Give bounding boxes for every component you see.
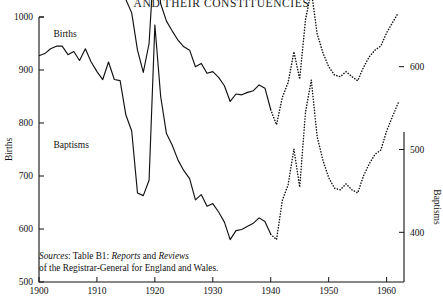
tick-label-right-400: 400 [410, 228, 425, 238]
series-label-births: Births [53, 29, 77, 39]
chart-page: AND THEIR CONSTITUENCIES 100090080070060… [0, 0, 443, 306]
source-note-text-a: : Table B1: [68, 251, 111, 261]
series-line-solid-births [39, 25, 271, 240]
tick-label-x-1940: 1940 [261, 286, 280, 296]
tick-label-x-1910: 1910 [87, 286, 106, 296]
tick-label-x-1960: 1960 [377, 286, 396, 296]
axis-title-left: Births [4, 138, 14, 162]
axis-title-right: Baptisms [432, 189, 442, 225]
tick-label-left-900: 900 [19, 65, 34, 75]
tick-label-left-1000: 1000 [14, 12, 33, 22]
source-note-line2: of the Registrar-General for England and… [39, 263, 218, 273]
source-note-italic-reports: Reports [111, 251, 140, 261]
series-line-solid-baptisms [39, 0, 271, 110]
tick-label-x-1950: 1950 [319, 286, 338, 296]
source-note: Sources: Table B1: Reports and Reviews o… [39, 250, 289, 275]
tick-label-x-1900: 1900 [30, 286, 49, 296]
series-label-baptisms: Baptisms [53, 140, 89, 150]
source-note-text-b: and [140, 251, 158, 261]
source-note-lead: Sources [39, 251, 68, 261]
tick-label-x-1930: 1930 [203, 286, 222, 296]
tick-label-right-600: 600 [410, 62, 425, 72]
series-line-dotted-baptisms [271, 0, 398, 125]
axis-left-bottom-spine [39, 17, 404, 282]
series-line-dotted-births [271, 80, 398, 240]
tick-label-right-500: 500 [410, 145, 425, 155]
tick-label-x-1920: 1920 [145, 286, 164, 296]
tick-label-left-800: 800 [19, 118, 34, 128]
tick-label-left-700: 700 [19, 171, 34, 181]
source-note-italic-reviews: Reviews [158, 251, 188, 261]
tick-label-left-600: 600 [19, 224, 34, 234]
